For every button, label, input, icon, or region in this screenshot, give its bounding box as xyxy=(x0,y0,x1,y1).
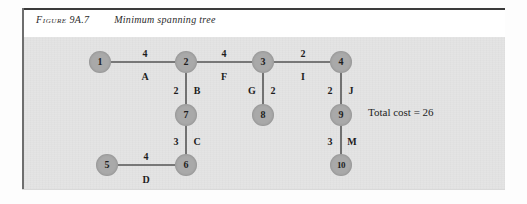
figure-container: Figure 9A.7 Minimum spanning tree 123478… xyxy=(0,0,527,204)
graph-node-label-3: 3 xyxy=(252,51,274,73)
graph-node-9: 9 xyxy=(330,104,352,126)
graph-canvas: 12347895610 4A4F2I2BG22J3C3M4D Total cos… xyxy=(0,0,527,204)
graph-node-label-5: 5 xyxy=(96,154,118,176)
graph-node-label-10: 10 xyxy=(330,154,352,176)
graph-node-label-7: 7 xyxy=(175,104,197,126)
edge-weight-label-a: 4 xyxy=(143,48,148,59)
edge-weight-label-m: 3 xyxy=(328,136,333,147)
graph-edges xyxy=(0,0,527,204)
edge-name-label-d: D xyxy=(142,174,149,185)
edge-weight-label-g: 2 xyxy=(271,85,276,96)
graph-node-label-6: 6 xyxy=(175,154,197,176)
graph-node-6: 6 xyxy=(175,154,197,176)
graph-node-8: 8 xyxy=(252,104,274,126)
edge-weight-label-j: 2 xyxy=(328,85,333,96)
graph-node-5: 5 xyxy=(96,154,118,176)
graph-node-label-1: 1 xyxy=(89,51,111,73)
edge-name-label-g: G xyxy=(248,85,256,96)
graph-node-10: 10 xyxy=(330,154,352,176)
edge-weight-label-b: 2 xyxy=(174,85,179,96)
graph-node-2: 2 xyxy=(175,51,197,73)
edge-name-label-m: M xyxy=(347,136,356,147)
edge-name-label-c: C xyxy=(193,136,200,147)
graph-node-label-8: 8 xyxy=(252,104,274,126)
graph-node-4: 4 xyxy=(330,51,352,73)
edge-name-label-j: J xyxy=(349,85,354,96)
edge-weight-label-i: 2 xyxy=(301,48,306,59)
graph-node-1: 1 xyxy=(89,51,111,73)
edge-weight-label-d: 4 xyxy=(144,151,149,162)
graph-node-label-9: 9 xyxy=(330,104,352,126)
graph-node-3: 3 xyxy=(252,51,274,73)
edge-weight-label-f: 4 xyxy=(222,48,227,59)
edge-name-label-f: F xyxy=(221,71,227,82)
edge-weight-label-c: 3 xyxy=(174,136,179,147)
edge-name-label-b: B xyxy=(194,85,201,96)
graph-node-7: 7 xyxy=(175,104,197,126)
edge-name-label-a: A xyxy=(141,71,148,82)
total-cost-annotation: Total cost = 26 xyxy=(368,106,434,118)
graph-node-label-2: 2 xyxy=(175,51,197,73)
graph-node-label-4: 4 xyxy=(330,51,352,73)
edge-name-label-i: I xyxy=(301,71,305,82)
